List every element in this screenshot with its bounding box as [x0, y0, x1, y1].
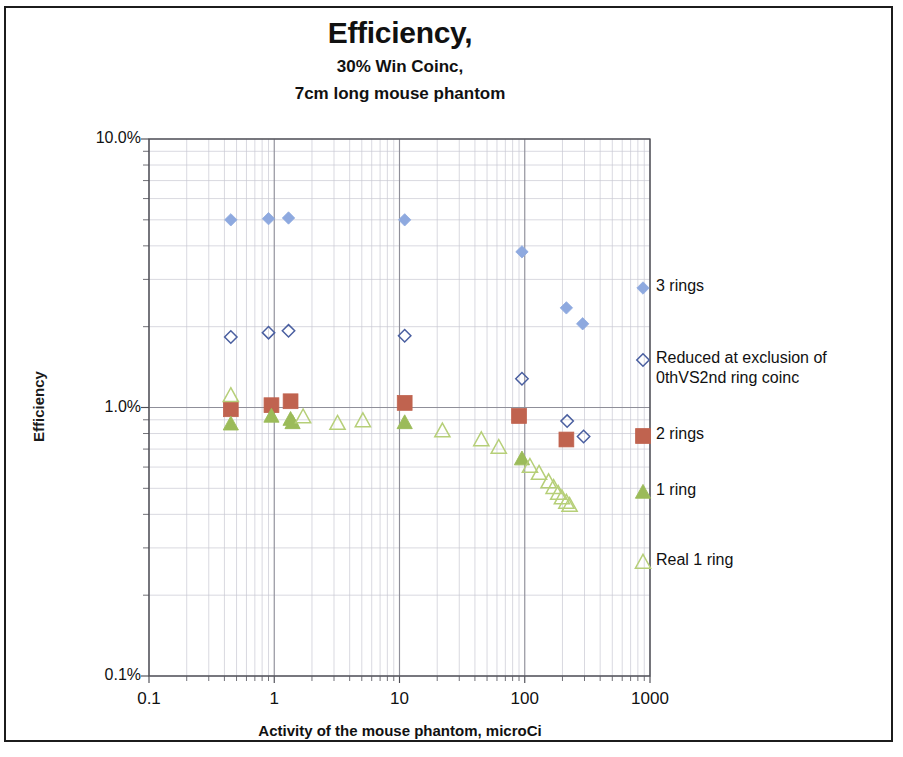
data-point [223, 402, 238, 417]
open-diamond-icon [634, 348, 656, 374]
legend-marker-glyph [635, 484, 650, 498]
data-point [577, 430, 589, 442]
legend-item-label: Reduced at exclusion of 0thVS2nd ring co… [656, 348, 827, 387]
legend-marker-glyph [637, 282, 649, 294]
data-point [282, 212, 294, 224]
y-tick-label: 1.0% [67, 398, 141, 416]
series-1 [225, 212, 589, 330]
data-point [576, 318, 588, 330]
legend-marker-glyph [636, 429, 651, 444]
legend-item-label: Real 1 ring [656, 550, 733, 570]
legend-item-5[interactable]: Real 1 ring [634, 550, 733, 576]
data-point [560, 302, 572, 314]
grid-major-group [141, 139, 650, 683]
data-point [516, 373, 528, 385]
legend-item-label: 1 ring [656, 480, 696, 500]
filled-square-icon [634, 424, 656, 450]
y-tick-label: 0.1% [67, 666, 141, 684]
chart-page: Efficiency, 30% Win Coinc, 7cm long mous… [0, 0, 903, 757]
legend-item-2[interactable]: Reduced at exclusion of 0thVS2nd ring co… [634, 348, 827, 387]
data-point [512, 409, 527, 424]
x-tick-label: 1 [244, 689, 304, 709]
x-tick-label: 0.1 [119, 689, 179, 709]
data-point [330, 415, 345, 429]
data-point [397, 396, 412, 411]
data-point [225, 214, 237, 226]
data-point [491, 440, 506, 454]
data-point [223, 416, 238, 430]
legend-marker-glyph [635, 554, 650, 568]
data-point [283, 394, 298, 409]
legend-item-3[interactable]: 2 rings [634, 424, 704, 450]
data-point [559, 432, 574, 447]
data-point [223, 388, 238, 402]
x-tick-label: 100 [495, 689, 555, 709]
data-point [262, 212, 274, 224]
chart-canvas: Efficiency, 30% Win Coinc, 7cm long mous… [0, 0, 903, 757]
data-point [474, 432, 489, 446]
data-point [516, 246, 528, 258]
legend-item-1[interactable]: 3 rings [634, 276, 704, 302]
legend-item-label: 2 rings [656, 424, 704, 444]
x-tick-label: 10 [370, 689, 430, 709]
y-tick-label: 10.0% [67, 129, 141, 147]
legend-item-label: 3 rings [656, 276, 704, 296]
data-point [225, 331, 237, 343]
filled-triangle-icon [634, 480, 656, 506]
filled-diamond-icon [634, 276, 656, 302]
x-tick-label: 1000 [620, 689, 680, 709]
open-triangle-icon [634, 550, 656, 576]
data-point [398, 214, 410, 226]
legend-item-4[interactable]: 1 ring [634, 480, 696, 506]
data-point [398, 330, 410, 342]
data-point [296, 409, 311, 423]
legend-marker-glyph [637, 354, 649, 366]
